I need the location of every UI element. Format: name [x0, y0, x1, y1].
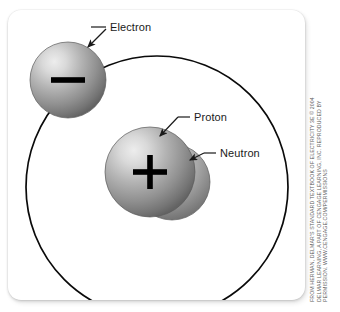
atom-diagram-figure: Electron Proton Neutron FROM HERMAN, DEL… — [0, 0, 340, 312]
neutron-label: Neutron — [220, 147, 260, 159]
electron-arrow-icon — [88, 29, 106, 47]
atom-diagram-canvas: Electron Proton Neutron — [8, 10, 305, 300]
credit-line-1: FROM HERMAN, DELMAR'S STANDARD TEXTBOOK … — [309, 10, 316, 302]
proton-label: Proton — [194, 111, 227, 123]
credit-line-3: PERMISSION. WWW.CENGAGE.COM/PERMISSIONS — [322, 10, 329, 302]
electron-minus-symbol — [51, 77, 85, 83]
credit-line-2: DELMAR LEARNING, A PART OF CENGAGE LEARN… — [316, 10, 323, 302]
source-credit: FROM HERMAN, DELMAR'S STANDARD TEXTBOOK … — [309, 10, 331, 302]
electron-label: Electron — [110, 21, 151, 33]
